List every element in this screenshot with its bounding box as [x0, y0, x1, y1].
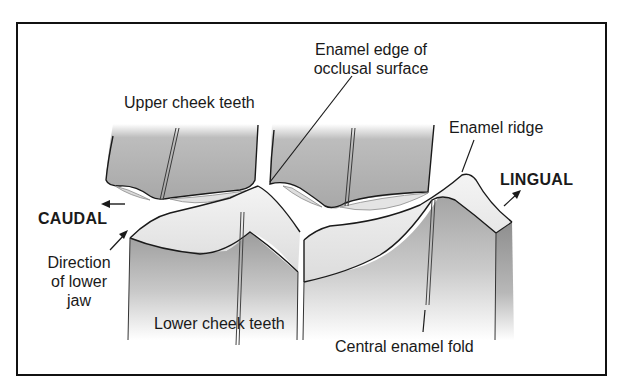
label-upper-cheek-teeth: Upper cheek teeth — [124, 93, 255, 112]
label-enamel-edge-line2: occlusal surface — [286, 59, 456, 78]
label-lower-cheek-teeth: Lower cheek teeth — [154, 314, 285, 333]
label-enamel-edge: Enamel edge of occlusal surface — [286, 40, 456, 78]
caudal-arrow-icon — [101, 200, 125, 208]
direction-arrow-icon — [110, 230, 128, 250]
lingual-arrow-icon — [504, 190, 521, 206]
label-direction-line2: of lower — [34, 272, 124, 291]
label-caudal: CAUDAL — [38, 209, 107, 228]
label-central-enamel-fold: Central enamel fold — [335, 337, 474, 356]
label-enamel-edge-line1: Enamel edge of — [286, 40, 456, 59]
label-direction-line1: Direction — [34, 253, 124, 272]
label-lingual: LINGUAL — [500, 170, 573, 189]
label-direction-line3: jaw — [34, 291, 124, 310]
label-enamel-ridge: Enamel ridge — [449, 118, 543, 137]
label-direction-of-lower-jaw: Direction of lower jaw — [34, 253, 124, 310]
